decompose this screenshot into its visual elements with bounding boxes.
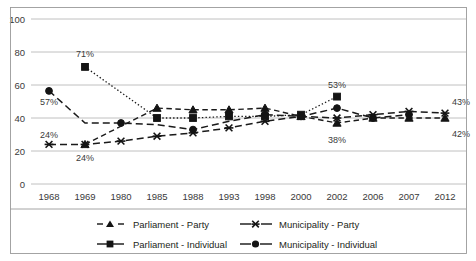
y-tick-20: 20	[14, 146, 25, 157]
x-tick-1988: 1988	[182, 191, 203, 202]
x-tick-1998: 1998	[254, 191, 275, 202]
legend-label-parliament-party: Parliament - Party	[133, 219, 209, 230]
square-icon	[107, 241, 114, 248]
legend-label-municipality-individual: Municipality - Individual	[279, 239, 377, 250]
data-point-marker	[226, 113, 233, 120]
data-point-marker	[82, 64, 89, 71]
y-tick-0: 0	[20, 179, 25, 190]
x-tick-1993: 1993	[218, 191, 239, 202]
data-point-marker	[262, 113, 269, 120]
x-tick-1985: 1985	[146, 191, 167, 202]
data-point-marker	[46, 88, 53, 95]
x-tick-1969: 1969	[74, 191, 95, 202]
chart-container: 100 80 60 40 20 0	[0, 0, 476, 261]
x-tick-2012: 2012	[434, 191, 455, 202]
data-point-marker	[154, 115, 161, 122]
data-point-marker	[334, 93, 341, 100]
x-tick-2006: 2006	[362, 191, 383, 202]
data-point-marker	[190, 115, 197, 122]
y-tick-60: 60	[14, 80, 25, 91]
y-tick-100: 100	[9, 14, 25, 25]
annotation-24-municipality: 24%	[40, 130, 58, 140]
chart-background	[0, 0, 476, 261]
circle-icon	[252, 240, 259, 247]
annotation-42: 42%	[452, 129, 470, 139]
line-chart: 100 80 60 40 20 0	[0, 0, 476, 261]
annotation-53: 53%	[328, 80, 346, 90]
x-tick-1968: 1968	[38, 191, 59, 202]
data-point-marker	[118, 120, 125, 127]
x-tick-1980: 1980	[110, 191, 131, 202]
data-point-marker	[334, 105, 341, 112]
x-tick-2002: 2002	[326, 191, 347, 202]
annotation-71: 71%	[76, 49, 94, 59]
legend-label-municipality-party: Municipality - Party	[279, 219, 359, 230]
x-tick-2007: 2007	[398, 191, 419, 202]
annotation-38: 38%	[328, 135, 346, 145]
y-tick-80: 80	[14, 47, 25, 58]
legend-label-parliament-individual: Parliament - Individual	[133, 239, 227, 250]
x-tick-2000: 2000	[290, 191, 311, 202]
annotation-43: 43%	[452, 97, 470, 107]
annotation-57: 57%	[40, 97, 58, 107]
annotation-24-parliament: 24%	[76, 153, 94, 163]
y-tick-40: 40	[14, 113, 25, 124]
